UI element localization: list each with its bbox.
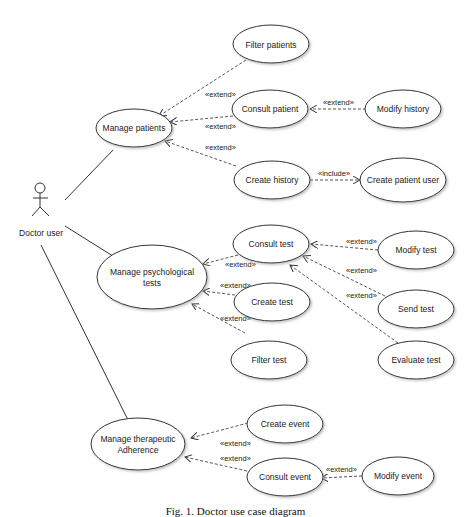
svg-text:Modify test: Modify test xyxy=(395,245,437,255)
use-case-filter-test[interactable]: Filter test xyxy=(231,341,307,379)
svg-text:Manage therapeutic: Manage therapeutic xyxy=(100,434,176,444)
use-case-manage-patients[interactable]: Manage patients xyxy=(96,109,172,147)
svg-text:Manage psychological: Manage psychological xyxy=(110,267,194,277)
stereotype-extend: «extend» xyxy=(346,237,377,246)
svg-text:Create patient user: Create patient user xyxy=(367,175,439,185)
use-case-create-event[interactable]: Create event xyxy=(247,405,323,443)
actor-doctor-user[interactable]: Doctor user xyxy=(19,183,63,238)
svg-text:Create test: Create test xyxy=(251,297,293,307)
svg-text:tests: tests xyxy=(143,278,161,288)
use-case-filter-patients[interactable]: Filter patients xyxy=(233,25,309,63)
svg-text:Modify history: Modify history xyxy=(377,104,430,114)
use-case-send-test[interactable]: Send test xyxy=(378,290,454,328)
svg-text:Adherence: Adherence xyxy=(117,445,158,455)
svg-text:Create history: Create history xyxy=(246,175,300,185)
svg-text:Consult test: Consult test xyxy=(249,239,295,249)
svg-text:Modify event: Modify event xyxy=(374,471,423,481)
figure-caption: Fig. 1. Doctor use case diagram xyxy=(0,505,471,517)
association-manage-tests xyxy=(65,226,116,258)
stereotype-extend: «extend» xyxy=(220,454,251,463)
association-manage-patients xyxy=(65,150,113,200)
svg-text:Create event: Create event xyxy=(261,419,310,429)
stereotype-extend: «extend» xyxy=(323,98,354,107)
stereotype-extend: «extend» xyxy=(205,122,236,131)
use-case-create-history[interactable]: Create history xyxy=(234,161,310,199)
use-case-consult-test[interactable]: Consult test xyxy=(233,225,309,263)
use-case-consult-event[interactable]: Consult event xyxy=(247,458,323,496)
use-case-manage-psychological-tests[interactable]: Manage psychological tests xyxy=(97,245,207,309)
use-case-create-test[interactable]: Create test xyxy=(234,283,310,321)
use-case-create-patient-user[interactable]: Create patient user xyxy=(360,158,446,202)
svg-text:Consult event: Consult event xyxy=(259,472,312,482)
svg-text:Filter test: Filter test xyxy=(252,355,288,365)
svg-text:Evaluate test: Evaluate test xyxy=(391,355,441,365)
stereotype-extend: «extend» xyxy=(326,465,357,474)
use-case-modify-event[interactable]: Modify event xyxy=(362,457,434,495)
svg-text:Consult patient: Consult patient xyxy=(242,104,299,114)
use-case-modify-test[interactable]: Modify test xyxy=(378,231,454,269)
stereotype-extend: «extend» xyxy=(225,260,256,269)
use-case-modify-history[interactable]: Modify history xyxy=(365,90,441,128)
svg-text:Filter patients: Filter patients xyxy=(245,40,296,50)
use-case-evaluate-test[interactable]: Evaluate test xyxy=(378,341,454,379)
stereotype-extend: «extend» xyxy=(205,90,236,99)
stereotype-include: «include» xyxy=(318,169,350,178)
stereotype-extend: «extend» xyxy=(220,439,251,448)
stereotype-extend: «extend» xyxy=(346,266,377,275)
use-case-consult-patient[interactable]: Consult patient xyxy=(232,90,308,128)
svg-text:Manage patients: Manage patients xyxy=(103,123,166,133)
use-case-manage-therapeutic-adherence[interactable]: Manage therapeutic Adherence xyxy=(91,418,185,470)
actor-head-icon xyxy=(35,183,45,193)
svg-text:Send test: Send test xyxy=(398,304,435,314)
stereotype-extend: «extend» xyxy=(205,143,236,152)
stereotype-extend: «extend» xyxy=(346,291,377,300)
actor-label: Doctor user xyxy=(19,228,63,238)
